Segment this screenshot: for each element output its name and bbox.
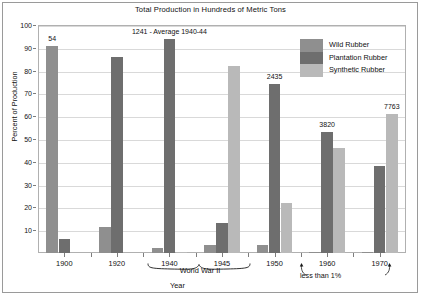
rubber-production-chart: Total Production in Hundreds of Metric T… (0, 0, 421, 296)
bar-value-label: 7763 (384, 103, 400, 110)
legend-swatch-synthetic-rubber (300, 64, 323, 77)
y-tick-mark (33, 162, 36, 163)
y-tick-mark (33, 25, 36, 26)
bar-1970-plantation-rubber (374, 166, 386, 253)
x-tick-mark (275, 253, 276, 257)
x-tick-mark (169, 253, 170, 257)
y-tick-label: 100 (20, 22, 32, 29)
legend-label-wild-rubber: Wild Rubber (329, 40, 369, 49)
y-tick-mark (33, 230, 36, 231)
y-axis-tick-labels: 102030405060708090100 (0, 25, 36, 253)
y-tick-label: 90 (24, 44, 32, 51)
y-tick-mark (33, 71, 36, 72)
y-tick-mark (33, 207, 36, 208)
y-tick-mark (33, 116, 36, 117)
legend-swatches (300, 39, 323, 77)
y-tick-label: 60 (24, 113, 32, 120)
x-axis-title: Year (170, 281, 185, 290)
x-tick-label-1950: 1950 (266, 259, 282, 268)
legend-label-synthetic-rubber: Synthetic Rubber (329, 65, 385, 74)
x-group-separator (353, 253, 354, 257)
y-tick-mark (33, 185, 36, 186)
y-tick-mark (33, 139, 36, 140)
legend-swatch-wild-rubber (300, 39, 323, 52)
y-tick-label: 50 (24, 136, 32, 143)
x-tick-label-1920: 1920 (109, 259, 125, 268)
y-tick-mark (33, 93, 36, 94)
legend-label-plantation-rubber: Plantation Rubber (329, 53, 387, 62)
x-group-separator (143, 253, 144, 257)
y-tick-label: 20 (24, 204, 32, 211)
y-tick-label: 40 (24, 158, 32, 165)
x-tick-mark (117, 253, 118, 257)
bar-1970-synthetic-rubber (386, 114, 398, 253)
y-tick-label: 80 (24, 67, 32, 74)
x-group-separator (196, 253, 197, 257)
x-group-separator (301, 253, 302, 257)
x-tick-label-1900: 1900 (56, 259, 72, 268)
legend-swatch-plantation-rubber (300, 52, 323, 65)
x-group-separator (91, 253, 92, 257)
chart-title: Total Production in Hundreds of Metric T… (0, 5, 421, 14)
y-tick-label: 70 (24, 90, 32, 97)
world-war-2-label: World War II (142, 266, 258, 275)
y-tick-label: 10 (24, 227, 32, 234)
x-tick-mark (64, 253, 65, 257)
less-than-one-percent-label: less than 1% (300, 271, 341, 280)
legend: Wild RubberPlantation RubberSynthetic Ru… (300, 37, 412, 81)
x-tick-mark (380, 253, 381, 257)
x-tick-mark (222, 253, 223, 257)
x-group-separator (248, 253, 249, 257)
y-tick-mark (33, 48, 36, 49)
x-tick-mark (327, 253, 328, 257)
y-tick-label: 30 (24, 181, 32, 188)
